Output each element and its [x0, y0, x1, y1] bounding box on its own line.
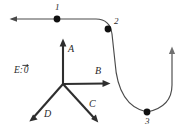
- point-label-1: 1: [55, 3, 60, 12]
- zero-vector-key-entry: E: 0: [14, 66, 29, 76]
- point-label-2: 2: [114, 17, 119, 26]
- point-marker-3: [144, 109, 151, 116]
- exit-arrow-icon: [169, 47, 175, 55]
- vector-line-b: [63, 84, 106, 85]
- vector-label-b: B: [95, 66, 101, 76]
- vector-arrowhead-b: [103, 80, 111, 87]
- vector-label-a: A: [68, 44, 74, 54]
- trajectory-markers: [54, 16, 151, 116]
- vector-label-d: D: [44, 109, 51, 119]
- vector-arrowhead-a: [60, 39, 67, 47]
- zero-vector-key-label: E:: [14, 65, 23, 75]
- entry-arrow-icon: [10, 16, 18, 22]
- zero-vector-symbol: 0: [23, 66, 29, 76]
- point-marker-2: [105, 26, 112, 33]
- point-marker-1: [54, 16, 61, 23]
- point-label-3: 3: [145, 117, 150, 126]
- vector-label-c: C: [89, 99, 96, 109]
- figure-container: 1 2 3 A B C D E: 0: [0, 0, 191, 129]
- zero-vector-value: 0: [24, 65, 29, 75]
